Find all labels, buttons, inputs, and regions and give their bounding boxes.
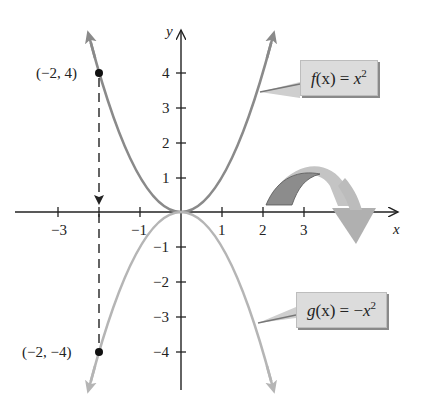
svg-text:3: 3 <box>300 222 308 238</box>
svg-text:−3: −3 <box>51 222 67 238</box>
svg-text:−4: −4 <box>153 344 169 360</box>
svg-text:−1: −1 <box>153 239 169 255</box>
reflection-arrow-icon <box>266 166 376 244</box>
svg-text:2: 2 <box>259 222 267 238</box>
f-arrow-left <box>89 36 95 58</box>
f-arrow-right <box>267 36 273 58</box>
g-label-callout: g(x) = −x2 <box>296 292 387 328</box>
g-arrow-right <box>267 366 273 388</box>
svg-text:2: 2 <box>162 135 170 151</box>
svg-text:4: 4 <box>162 65 170 81</box>
x-tick-labels: −3 −1 1 2 3 <box>51 222 308 238</box>
f-label-callout: f(x) = x2 <box>300 60 378 96</box>
x-axis-label: x <box>392 221 400 237</box>
y-axis-label: y <box>164 23 173 39</box>
svg-text:1: 1 <box>218 222 226 238</box>
svg-text:1: 1 <box>162 170 170 186</box>
svg-text:−1: −1 <box>131 222 147 238</box>
g-callout-pointer <box>258 307 296 323</box>
point-top <box>95 69 103 77</box>
svg-text:3: 3 <box>162 100 170 116</box>
point-bottom-label: (−2, −4) <box>22 344 71 361</box>
g-arrow-left <box>89 366 95 388</box>
point-bottom <box>95 348 103 356</box>
svg-text:−2: −2 <box>153 274 169 290</box>
point-top-label: (−2, 4) <box>36 65 77 82</box>
f-callout-pointer <box>260 82 300 98</box>
svg-text:−3: −3 <box>153 309 169 325</box>
